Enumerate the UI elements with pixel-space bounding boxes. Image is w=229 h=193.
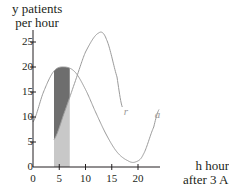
x-tick-label: 5 xyxy=(57,172,63,184)
x-axis-label-line2: after 3 A.M. xyxy=(183,173,229,187)
chart: y patients per hour h hours after 3 A.M.… xyxy=(0,0,229,193)
x-tick-label: 20 xyxy=(133,172,144,184)
y-tick-label: 10 xyxy=(22,110,33,122)
curve-label-r: r xyxy=(124,105,128,117)
y-tick-label: 25 xyxy=(22,35,33,47)
curves xyxy=(33,32,159,162)
x-axis-label: h hours after 3 A.M. xyxy=(183,159,229,187)
x-tick-label: 10 xyxy=(80,172,91,184)
x-tick-label: 0 xyxy=(30,172,36,184)
x-tick-label: 15 xyxy=(106,172,117,184)
y-tick-label: 15 xyxy=(22,85,33,97)
y-axis-label-line1: y patients xyxy=(12,2,62,16)
axes xyxy=(30,30,160,170)
y-tick-label: 20 xyxy=(22,60,33,72)
y-axis-label-line2: per hour xyxy=(12,16,62,30)
curve-label-a: a xyxy=(155,108,161,120)
y-axis-label: y patients per hour xyxy=(12,2,62,30)
y-tick-label: 5 xyxy=(28,135,34,147)
shaded-region xyxy=(54,67,70,167)
x-axis-label-line1: h hours xyxy=(183,159,229,173)
y-tick-label: 0 xyxy=(28,160,34,172)
curve-a xyxy=(33,67,159,162)
